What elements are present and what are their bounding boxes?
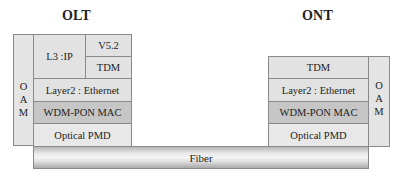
fiber-label: Fiber [189,152,212,164]
olt-oam-column: O A M [13,34,34,146]
ont-oam-letter-m: M [374,105,383,118]
fiber-link: Fiber [33,146,369,169]
ont-title: ONT [302,8,333,24]
olt-v52-layer: V5.2 [85,34,132,57]
ont-tdm-layer: TDM [268,56,369,79]
olt-layer2-ethernet: Layer2 : Ethernet [33,78,132,102]
olt-l3-ip-layer: L3 :IP [33,34,86,79]
ont-oam-column: O A M [368,56,390,147]
ont-oam-letter-a: A [375,92,383,105]
olt-oam-letter-m: M [19,106,28,119]
ont-layer2-ethernet: Layer2 : Ethernet [268,78,369,102]
olt-oam-letter-o: O [20,80,28,93]
ont-wdm-pon-mac: WDM-PON MAC [268,101,369,124]
olt-wdm-pon-mac: WDM-PON MAC [33,101,132,124]
ont-optical-pmd: Optical PMD [268,123,369,147]
olt-oam-letter-a: A [20,93,28,106]
ont-oam-letter-o: O [375,79,383,92]
olt-title: OLT [62,8,91,24]
olt-tdm-layer: TDM [85,56,132,79]
olt-optical-pmd: Optical PMD [33,123,132,147]
